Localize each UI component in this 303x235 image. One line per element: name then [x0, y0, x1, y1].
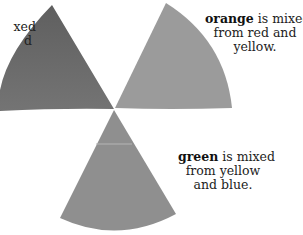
green-caption: green is mixed from yellow and blue.: [178, 150, 268, 192]
caption-line: orange is mixed: [205, 12, 303, 26]
caption-line: d: [0, 34, 36, 48]
purple-caption: xed d: [0, 20, 36, 48]
caption-line: and blue.: [178, 178, 268, 192]
caption-text: is mixed: [218, 149, 275, 164]
caption-line: yellow.: [205, 40, 303, 54]
orange-caption: orange is mixed from red and yellow.: [205, 12, 303, 54]
caption-text: is mixed: [254, 11, 303, 26]
caption-line: xed: [0, 20, 36, 34]
green-wedge: [60, 110, 176, 231]
color-name: green: [178, 149, 218, 164]
color-name: orange: [205, 11, 254, 26]
caption-line: from red and: [205, 26, 303, 40]
caption-line: green is mixed: [178, 150, 268, 164]
caption-line: from yellow: [178, 164, 268, 178]
